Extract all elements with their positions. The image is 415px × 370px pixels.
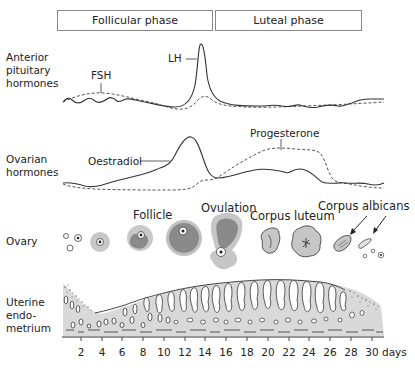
primordial-follicles	[64, 234, 82, 252]
primary-follicle	[90, 232, 110, 252]
tick-label: 12	[178, 346, 191, 358]
tick-label: 6	[119, 346, 126, 358]
ovulating-follicle	[210, 213, 242, 269]
corpus-albicans-small	[359, 239, 372, 248]
tick-label: 26	[323, 346, 336, 358]
oestradiol-curve	[63, 137, 384, 187]
tick-label: 22	[282, 346, 295, 358]
tick-label: 10	[157, 346, 170, 358]
corpus-luteum-mature	[292, 226, 321, 257]
fsh-curve	[63, 93, 384, 109]
days-axis	[62, 337, 384, 341]
tick-label: 16	[219, 346, 232, 358]
menstrual-cycle-diagram	[0, 0, 415, 370]
tick-label: 30	[365, 346, 378, 358]
regressing-follicles	[363, 249, 384, 258]
axis-unit-label: days	[382, 346, 407, 358]
tick-label: 28	[344, 346, 357, 358]
tick-label: 2	[78, 346, 85, 358]
corpus-albicans-arrows	[350, 216, 386, 235]
tick-label: 14	[198, 346, 211, 358]
tick-label: 24	[302, 346, 315, 358]
tick-label: 20	[261, 346, 274, 358]
tick-label: 8	[140, 346, 147, 358]
corpus-albicans-large	[334, 235, 351, 251]
tick-label: 18	[240, 346, 253, 358]
endometrium	[63, 280, 384, 336]
secondary-follicle	[127, 225, 153, 251]
graafian-follicle	[166, 220, 202, 256]
corpus-luteum-early	[261, 228, 280, 253]
lh-curve	[63, 44, 384, 108]
tick-label: 4	[99, 346, 106, 358]
progesterone-curve	[63, 148, 384, 190]
